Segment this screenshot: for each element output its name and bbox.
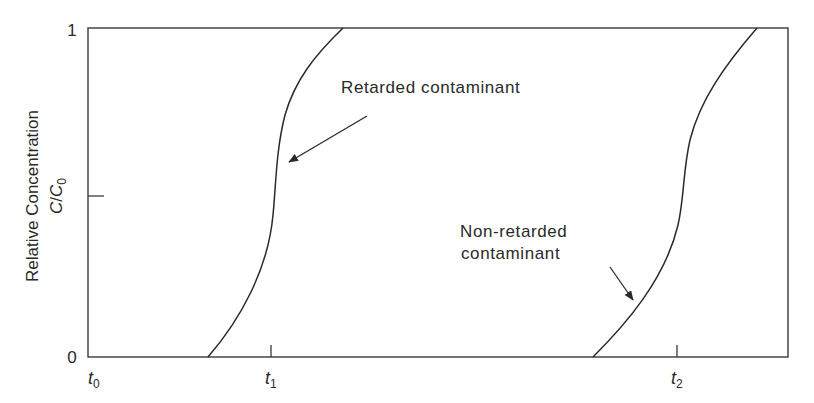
breakthrough-diagram: 1 0 Relative Concentration C/C0 t0 t0 t1… [0,0,814,403]
y-axis-title: Relative Concentration [23,110,42,282]
x-tick-label-t2: t2 [671,368,683,391]
arrow-non-retarded [610,267,633,300]
y-tick-label-0: 0 [67,348,76,367]
x-tick-label-t1: t1 [265,368,277,391]
y-axis-subtitle: C/C0 [47,178,69,214]
annotation-non-retarded-line2: contaminant [461,244,560,263]
arrow-retarded [289,116,367,162]
annotation-non-retarded-line1: Non-retarded [460,222,567,241]
non-retarded-curve [593,28,757,357]
retarded-curve [208,28,343,357]
x-tick-label-t0: t0 t0 [88,368,100,391]
y-tick-label-1: 1 [67,21,76,40]
annotation-retarded: Retarded contaminant [341,78,520,97]
